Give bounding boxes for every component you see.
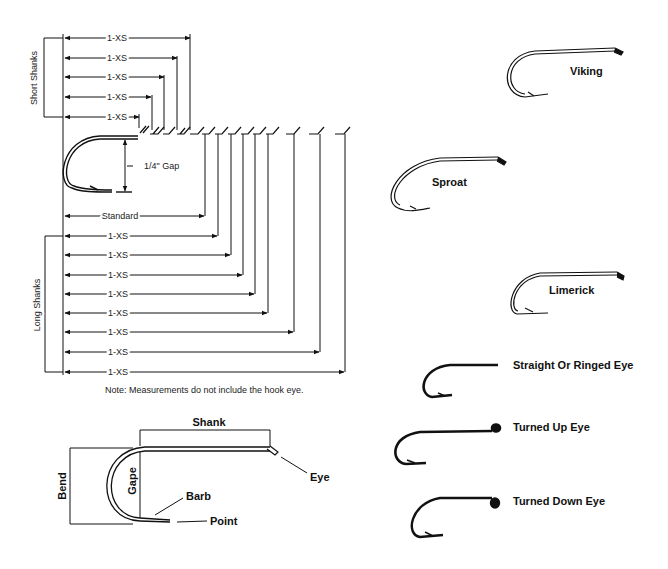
long-shanks-label: Long Shanks [32,278,42,331]
reference-hook [63,136,138,192]
limerick-label: Limerick [549,284,595,296]
long-row-3: 1-XS [108,270,128,280]
point-label: Point [210,515,238,527]
eye-markers [140,126,350,134]
short-row-3: 1-XS [107,72,127,82]
gape-label: Gape [126,467,138,495]
shank-chart-labels: Short Shanks Long Shanks 1-XS 1-XS 1-XS … [29,33,304,395]
measurement-note: Note: Measurements do not include the ho… [105,385,304,395]
hook-anatomy [70,430,307,524]
turned-down-eye-hook [412,498,499,537]
short-row-1: 1-XS [107,33,127,43]
short-shanks-label: Short Shanks [29,50,39,105]
long-row-2: 1-XS [108,250,128,260]
shank-length-chart [44,34,350,375]
turned-up-eye-hook [395,425,500,465]
straight-eye-label: Straight Or Ringed Eye [513,359,633,371]
bend-label: Bend [56,472,68,500]
short-row-4: 1-XS [107,92,127,102]
long-row-7: 1-XS [108,347,128,357]
straight-eye-hook [424,365,498,397]
long-row-4: 1-XS [108,289,128,299]
short-row-5: 1-XS [107,112,127,122]
gap-label: 1/4" Gap [144,161,179,171]
long-row-1: 1-XS [108,231,128,241]
sproat-label: Sproat [432,176,467,188]
long-row-8: 1-XS [108,367,128,377]
hook-diagram: Short Shanks Long Shanks 1-XS 1-XS 1-XS … [0,0,668,569]
short-row-2: 1-XS [107,53,127,63]
eye-label: Eye [310,471,330,483]
turned-down-eye-label: Turned Down Eye [513,495,605,507]
long-row-5: 1-XS [108,308,128,318]
viking-hook [507,48,623,97]
hook-anatomy-labels: Shank Bend Gape Barb Point Eye [56,416,330,527]
turned-up-eye-label: Turned Up Eye [513,421,590,433]
standard-label: Standard [102,211,139,221]
long-row-6: 1-XS [108,327,128,337]
barb-label: Barb [186,490,211,502]
shank-label: Shank [192,416,226,428]
viking-label: Viking [570,65,603,77]
